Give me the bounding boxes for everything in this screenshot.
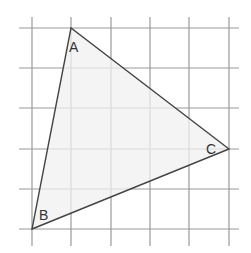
triangle-abc	[32, 28, 229, 229]
vertex-label-c: C	[206, 141, 216, 157]
vertex-label-a: A	[69, 39, 79, 55]
triangle-diagram: A B C	[0, 0, 251, 253]
diagram-canvas: A B C	[0, 0, 251, 253]
vertex-label-b: B	[39, 207, 48, 223]
